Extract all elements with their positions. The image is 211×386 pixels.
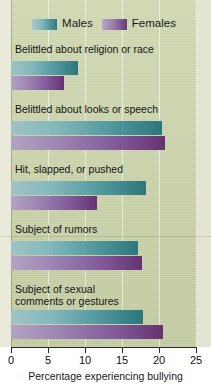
page-margin-right: [197, 0, 211, 347]
category-label-3: Subject of rumors: [15, 224, 97, 236]
females-swatch-icon: [102, 19, 127, 30]
bar-group-rumors: Subject of rumors: [11, 224, 197, 276]
legend: Males Females: [11, 14, 197, 34]
x-tick-15: [122, 348, 123, 353]
x-tick-label-0: 0: [8, 354, 14, 366]
bar-females-0: [11, 76, 64, 90]
category-label-1: Belittled about looks or speech: [15, 104, 158, 116]
males-swatch-icon: [32, 19, 57, 30]
x-tick-10: [85, 348, 86, 353]
category-label-2: Hit, slapped, or pushed: [15, 164, 123, 176]
bullying-bar-chart: Males Females Belittled about religion o…: [0, 0, 211, 386]
x-tick-25: [196, 348, 197, 353]
x-tick-label-5: 5: [45, 354, 51, 366]
bar-males-0: [11, 61, 78, 75]
x-axis-title: Percentage experiencing bullying: [0, 370, 211, 382]
legend-item-females: Females: [102, 18, 176, 30]
page-margin-left: [0, 0, 11, 347]
x-tick-label-25: 25: [190, 354, 202, 366]
x-tick-label-20: 20: [153, 354, 165, 366]
x-axis-line: [11, 347, 197, 348]
category-label-0: Belittled about religion or race: [15, 44, 154, 56]
legend-item-males: Males: [32, 18, 93, 30]
bar-group-looks-or-speech: Belittled about looks or speech: [11, 104, 197, 156]
bar-group-hit-slapped-pushed: Hit, slapped, or pushed: [11, 164, 197, 216]
bar-females-3: [11, 256, 142, 270]
page-fold-artifact: [0, 236, 211, 237]
bar-females-2: [11, 196, 97, 210]
bar-females-4: [11, 325, 163, 339]
bar-group-religion-or-race: Belittled about religion or race: [11, 44, 197, 96]
x-tick-label-10: 10: [79, 354, 91, 366]
bar-males-2: [11, 181, 146, 195]
legend-label-females: Females: [132, 18, 176, 30]
bar-females-1: [11, 136, 165, 150]
bar-group-sexual-comments: Subject of sexual comments or gestures: [11, 284, 197, 344]
bar-males-1: [11, 121, 162, 135]
x-tick-0: [11, 348, 12, 353]
x-tick-5: [48, 348, 49, 353]
x-tick-label-15: 15: [116, 354, 128, 366]
category-label-4: Subject of sexual comments or gestures: [15, 284, 119, 307]
bar-males-3: [11, 241, 138, 255]
x-tick-20: [159, 348, 160, 353]
legend-label-males: Males: [62, 18, 93, 30]
bar-males-4: [11, 310, 143, 324]
